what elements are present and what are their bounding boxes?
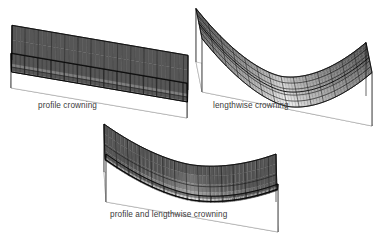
figure-profile-crowning <box>8 14 204 102</box>
caption-profile-crowning: profile crowning <box>38 101 97 110</box>
figure-lengthwise-crowning <box>188 4 380 100</box>
caption-profile-and-lengthwise-crowning: profile and lengthwise crowning <box>110 210 227 219</box>
caption-lengthwise-crowning: lengthwise crowning <box>213 101 289 110</box>
figure-profile-and-lengthwise-crowning <box>98 118 290 210</box>
